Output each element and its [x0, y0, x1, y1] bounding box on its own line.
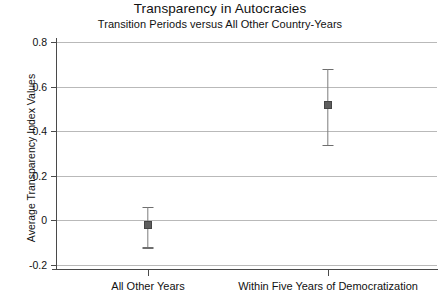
- gridline--0.2: [57, 265, 437, 266]
- gridline-0: [57, 220, 437, 221]
- y-tick-label-0: 0: [7, 215, 47, 225]
- y-tick-mark-0.8: [51, 42, 57, 43]
- y-tick-label--0.2: -0.2: [7, 260, 47, 270]
- error-bar-cap-lower: [143, 247, 154, 249]
- y-tick-label-0.6: 0.6: [7, 82, 47, 92]
- gridline-0.4: [57, 131, 437, 132]
- y-tick-label-0.4: 0.4: [7, 126, 47, 136]
- y-tick-label-0.2: 0.2: [7, 171, 47, 181]
- gridline-0.8: [57, 42, 437, 43]
- x-axis-line: [52, 269, 438, 270]
- y-tick-mark-0.4: [51, 131, 57, 132]
- x-tick-label-all-other-years: All Other Years: [111, 280, 184, 293]
- y-axis-title: Average Transparency Index Values: [25, 43, 37, 273]
- y-tick-mark-0.6: [51, 87, 57, 88]
- y-tick-mark-0: [51, 220, 57, 221]
- chart-subtitle: Transition Periods versus All Other Coun…: [0, 17, 440, 31]
- plot-area: [57, 42, 437, 265]
- y-tick-mark--0.2: [51, 265, 57, 266]
- x-tick-mark-within-five-years: [328, 270, 329, 276]
- x-tick-mark-all-other-years: [148, 270, 149, 276]
- data-point-marker: [324, 101, 332, 109]
- x-tick-label-within-five-years: Within Five Years of Democratization: [238, 280, 418, 293]
- chart-figure: Transparency in Autocracies Transition P…: [0, 0, 440, 301]
- data-point-marker: [144, 221, 152, 229]
- gridline-0.2: [57, 176, 437, 177]
- gridline-0.6: [57, 87, 437, 88]
- y-tick-mark-0.2: [51, 176, 57, 177]
- error-bar-cap-lower: [323, 145, 334, 147]
- y-tick-label-0.8: 0.8: [7, 37, 47, 47]
- chart-title: Transparency in Autocracies: [0, 1, 440, 17]
